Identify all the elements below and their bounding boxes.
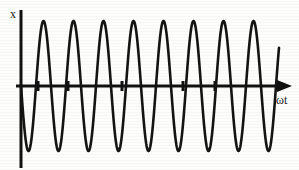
x-axis-arrowhead bbox=[277, 80, 292, 92]
oscillation-figure: x ωt bbox=[0, 0, 299, 170]
oscillation-chart-svg: x ωt bbox=[0, 0, 299, 170]
x-axis-label: ωt bbox=[276, 93, 288, 107]
y-axis-label: x bbox=[10, 7, 16, 21]
